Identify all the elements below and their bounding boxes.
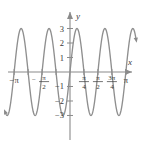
y-tick-label: −2 xyxy=(55,96,64,106)
plot-svg: −π−π2π4π23π4π 321−1−2−3 x y xyxy=(0,0,144,145)
y-tick-label: −3 xyxy=(55,110,64,120)
y-tick-label: 1 xyxy=(60,53,64,63)
fraction-numerator: 3π xyxy=(108,74,116,82)
curve-left-arrowhead xyxy=(4,109,8,115)
x-tick-label-fraction: 3π4 xyxy=(107,74,117,91)
y-axis-arrowhead xyxy=(67,12,73,19)
fraction-numerator: π xyxy=(42,74,46,82)
fraction-denominator: 4 xyxy=(82,83,86,91)
fraction-numerator: π xyxy=(82,74,86,82)
fraction-denominator: 2 xyxy=(96,83,100,91)
y-tick-label: 3 xyxy=(60,24,64,34)
fraction-denominator: 2 xyxy=(42,83,46,91)
x-tick-label: π xyxy=(124,75,129,85)
x-tick-label-fraction: π4 xyxy=(79,74,89,91)
y-tick-label: −1 xyxy=(55,81,64,91)
y-axis-label: y xyxy=(75,11,80,21)
y-tick-label: 2 xyxy=(60,38,64,48)
function-graph-figure: −π−π2π4π23π4π 321−1−2−3 x y xyxy=(0,0,144,145)
fraction-denominator: 4 xyxy=(110,83,114,91)
fraction-sign: − xyxy=(32,76,36,84)
x-axis-label: x xyxy=(127,57,132,67)
curve-right-arrowhead xyxy=(134,37,138,42)
x-tick-label-fraction: π2 xyxy=(93,74,103,91)
fraction-numerator: π xyxy=(96,74,100,82)
x-tick-label: −π xyxy=(10,75,20,85)
